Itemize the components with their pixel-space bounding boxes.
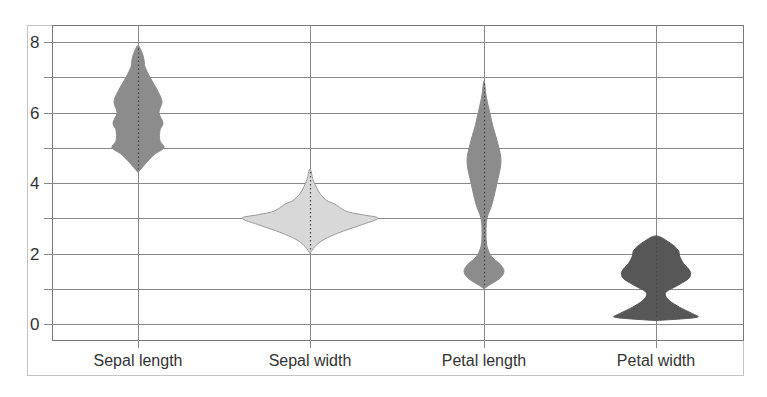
x-category-label: Sepal length bbox=[94, 352, 183, 369]
y-tick-label-0: 0 bbox=[30, 315, 39, 334]
y-tick-label-2: 2 bbox=[30, 245, 39, 264]
y-tick-label-6: 6 bbox=[30, 104, 39, 123]
y-tick-label-4: 4 bbox=[30, 174, 39, 193]
y-tick-label-8: 8 bbox=[30, 33, 39, 52]
x-category-label: Petal length bbox=[442, 352, 527, 369]
x-category-label: Petal width bbox=[617, 352, 695, 369]
violin-chart: 02468 Sepal lengthSepal widthPetal lengt… bbox=[0, 0, 767, 397]
x-category-label: Sepal width bbox=[269, 352, 352, 369]
